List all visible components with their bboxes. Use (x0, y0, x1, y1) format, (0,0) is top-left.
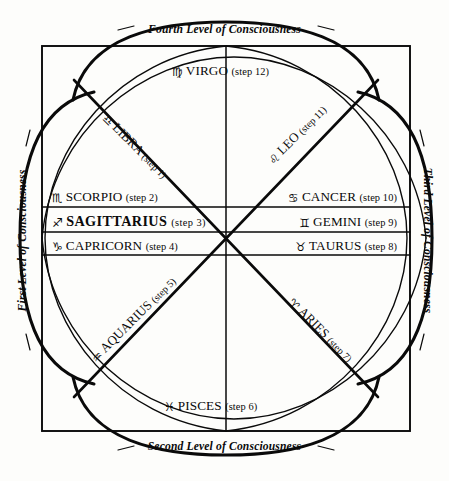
capricorn-name: CAPRICORN (66, 238, 142, 253)
cancer-glyph-icon: ♋ (288, 191, 299, 205)
capricorn-step: (step 4) (146, 241, 178, 252)
scorpio-name: SCORPIO (66, 189, 122, 204)
sagittarius-glyph-icon: ♐ (52, 216, 63, 230)
lens-arc-bottom (42, 238, 426, 419)
cancer-step: (step 10) (359, 192, 397, 203)
level-caption-bottom-text: Second Level of Consciousness (148, 440, 301, 453)
sign-label-sagittarius[interactable]: ♐SAGITTARIUS (step 3) (52, 214, 206, 229)
taurus-step: (step 8) (365, 241, 397, 252)
gemini-step: (step 9) (365, 217, 397, 228)
level-caption-top: Fourth Level of Consciousness (0, 23, 449, 36)
scorpio-step: (step 2) (126, 192, 158, 203)
sign-label-taurus[interactable]: ♉TAURUS (step 8) (295, 239, 397, 253)
sign-label-virgo[interactable]: ♍VIRGO (step 12) (172, 64, 269, 78)
sign-label-scorpio[interactable]: ♏SCORPIO (step 2) (52, 190, 158, 204)
scorpio-glyph-icon: ♏ (52, 191, 63, 205)
level-caption-left-text: First Level of Consciousness (16, 170, 29, 312)
sagittarius-step: (step 3) (171, 217, 206, 228)
taurus-glyph-icon: ♉ (295, 240, 306, 254)
sagittarius-name: SAGITTARIUS (66, 213, 167, 229)
taurus-name: TAURUS (309, 238, 361, 253)
level-caption-right-text: Third Level of Consciousness (421, 168, 434, 314)
capricorn-glyph-icon: ♑ (52, 240, 63, 254)
diagram-canvas: Fourth Level of Consciousness Second Lev… (0, 0, 449, 481)
level-caption-top-text: Fourth Level of Consciousness (148, 23, 301, 36)
level-caption-bottom: Second Level of Consciousness (0, 440, 449, 453)
pisces-name: PISCES (178, 398, 222, 413)
virgo-step: (step 12) (232, 66, 270, 77)
sign-label-cancer[interactable]: ♋CANCER (step 10) (288, 190, 397, 204)
level-caption-left: First Level of Consciousness (16, 141, 29, 341)
sign-label-gemini[interactable]: ♊GEMINI (step 9) (299, 215, 397, 229)
cancer-name: CANCER (302, 189, 356, 204)
sign-label-capricorn[interactable]: ♑CAPRICORN (step 4) (52, 239, 178, 253)
pisces-glyph-icon: ♓ (164, 400, 175, 414)
sign-label-pisces[interactable]: ♓PISCES (step 6) (164, 399, 257, 413)
level-caption-right: Third Level of Consciousness (421, 141, 434, 341)
virgo-glyph-icon: ♍ (172, 65, 183, 79)
gemini-name: GEMINI (313, 214, 361, 229)
virgo-name: VIRGO (186, 63, 228, 78)
pisces-step: (step 6) (225, 401, 257, 412)
lens-arc-top (42, 57, 426, 238)
gemini-glyph-icon: ♊ (299, 216, 310, 230)
